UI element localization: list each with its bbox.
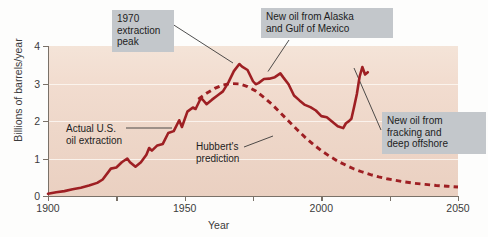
chart-figure: 4 3 2 1 0 1900 1950 2000 2050 Billions o… bbox=[0, 0, 488, 237]
leader-alaska bbox=[268, 40, 289, 72]
annotation-alaska-gulf: New oil from Alaska and Gulf of Mexico bbox=[261, 8, 393, 38]
leader-peak bbox=[166, 20, 233, 63]
leader-fracking bbox=[354, 68, 381, 130]
annotation-fracking: New oil from fracking and deep offshore bbox=[382, 112, 486, 154]
annotation-hubbert: Hubbert's prediction bbox=[196, 141, 239, 164]
leader-hubbert bbox=[244, 136, 273, 147]
annotation-actual-extraction: Actual U.S. oil extraction bbox=[66, 123, 122, 146]
annotation-1970-peak: 1970 extraction peak bbox=[112, 10, 174, 52]
